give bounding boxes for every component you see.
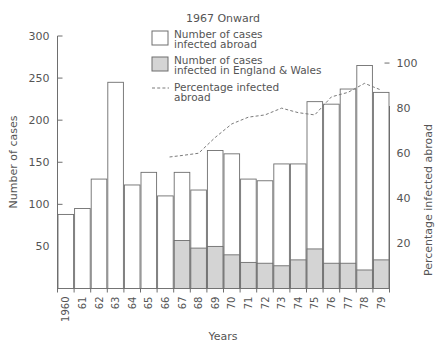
x-tick-label-1960: 1960: [60, 297, 71, 322]
y-axis-left-label: Number of cases: [7, 115, 20, 208]
bar-group-70: [224, 154, 240, 289]
bar-group-73: [274, 164, 290, 289]
chart-figure: 1967 Onward 50100150200250300 2040608010…: [0, 0, 446, 345]
legend-swatch-shaded-square: [152, 57, 168, 71]
bar-group-72: [257, 181, 273, 289]
bar-group-63: [108, 82, 124, 288]
bar-group-65: [141, 172, 157, 288]
bar-shaded-73: [274, 266, 290, 289]
chart-title: 1967 Onward: [186, 12, 260, 25]
y-tick-label-left: 200: [29, 114, 50, 127]
x-tick-label-78: 78: [359, 297, 370, 310]
malaria-cases-chart: 1967 Onward 50100150200250300 2040608010…: [0, 0, 446, 345]
bar-group-68: [191, 190, 207, 288]
bar-group-66: [158, 196, 174, 289]
y-axis-right-label: Percentage infected abroad: [422, 124, 435, 276]
x-tick-label-76: 76: [326, 297, 337, 310]
x-tick-label-79: 79: [376, 297, 387, 310]
legend-label-ew-line2: infected in England & Wales: [174, 64, 321, 76]
bar-total-77: [340, 89, 356, 288]
bar-total-63: [108, 82, 124, 288]
bar-total-78: [357, 65, 373, 288]
bar-total-76: [324, 104, 340, 288]
y-tick-label-right: 40: [397, 192, 411, 205]
bar-shaded-76: [324, 263, 340, 288]
y-tick-label-right: 100: [397, 57, 418, 70]
bar-shaded-68: [191, 248, 207, 288]
x-axis-label: Years: [207, 330, 237, 343]
bar-total-64: [124, 185, 140, 289]
bar-shaded-77: [340, 263, 356, 288]
bar-shaded-78: [357, 270, 373, 289]
bar-total-61: [75, 209, 91, 289]
bar-total-66: [158, 196, 174, 289]
x-tick-label-67: 67: [177, 297, 188, 310]
bar-shaded-74: [290, 260, 306, 289]
x-tick-label-68: 68: [193, 297, 204, 310]
y-tick-label-left: 150: [29, 156, 50, 169]
bar-total-65: [141, 172, 157, 288]
legend-label-abroad-line2: infected abroad: [174, 38, 257, 50]
bar-group-79: [373, 92, 389, 288]
x-tick-label-66: 66: [160, 297, 171, 310]
y-tick-label-left: 100: [29, 198, 50, 211]
x-tick-label-73: 73: [276, 297, 287, 310]
bar-shaded-71: [241, 262, 257, 288]
legend-label-pct-line2: abroad: [174, 91, 211, 103]
bar-shaded-67: [174, 241, 190, 289]
y-tick-label-right: 80: [397, 102, 411, 115]
x-tick-label-69: 69: [210, 297, 221, 310]
legend-swatch-open-square: [152, 31, 168, 45]
bar-total-1960: [58, 214, 74, 288]
bar-shaded-75: [307, 249, 323, 289]
x-tick-label-63: 63: [110, 297, 121, 310]
bar-group-75: [307, 102, 323, 289]
bar-group-71: [241, 179, 257, 288]
bar-group-62: [91, 179, 107, 288]
x-tick-label-74: 74: [293, 297, 304, 310]
bar-group-74: [290, 164, 306, 289]
bar-group-69: [207, 150, 223, 288]
bar-group-1960: [58, 214, 74, 288]
y-tick-label-right: 20: [397, 237, 411, 250]
y-tick-label-left: 50: [36, 240, 50, 253]
x-tick-label-62: 62: [94, 297, 105, 310]
x-tick-label-75: 75: [309, 297, 320, 310]
bar-group-67: [174, 172, 190, 288]
x-tick-label-72: 72: [260, 297, 271, 310]
y-tick-label-right: 60: [397, 147, 411, 160]
bar-group-77: [340, 89, 356, 288]
bar-shaded-70: [224, 255, 240, 289]
bar-total-79: [373, 92, 389, 288]
bar-total-62: [91, 179, 107, 288]
bar-shaded-69: [207, 246, 223, 288]
x-tick-label-64: 64: [127, 297, 138, 310]
bar-group-61: [75, 209, 91, 289]
x-tick-label-70: 70: [226, 297, 237, 310]
x-tick-label-61: 61: [77, 297, 88, 310]
bar-group-78: [357, 65, 373, 288]
x-tick-label-65: 65: [143, 297, 154, 310]
bar-group-64: [124, 185, 140, 289]
bar-shaded-79: [373, 260, 389, 289]
y-tick-label-left: 300: [29, 30, 50, 43]
y-tick-label-left: 250: [29, 72, 50, 85]
bar-group-76: [324, 104, 340, 288]
x-tick-label-71: 71: [243, 297, 254, 310]
bar-shaded-72: [257, 263, 273, 288]
x-tick-label-77: 77: [343, 297, 354, 310]
